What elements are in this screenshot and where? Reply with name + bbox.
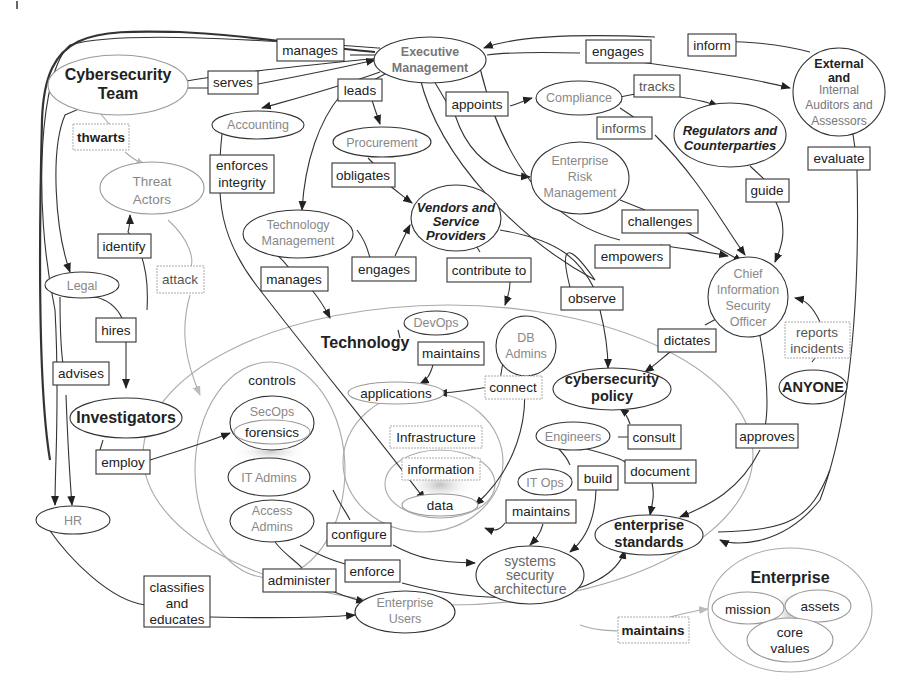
- svg-text:Service: Service: [433, 214, 479, 229]
- controls-label: controls: [248, 373, 296, 388]
- svg-text:manages: manages: [266, 272, 322, 287]
- svg-text:Cybersecurity: Cybersecurity: [65, 66, 172, 83]
- svg-text:ANYONE: ANYONE: [782, 379, 844, 395]
- label-administer: administer: [263, 569, 336, 592]
- svg-text:attack: attack: [162, 272, 198, 287]
- label-maintains-devops: maintains: [418, 342, 484, 365]
- label-connect: connect: [485, 376, 542, 399]
- svg-text:Internal: Internal: [819, 83, 859, 97]
- label-identify: identify: [98, 234, 151, 258]
- label-empowers: empowers: [595, 245, 670, 268]
- svg-text:approves: approves: [739, 429, 795, 444]
- svg-text:evaluate: evaluate: [813, 151, 864, 166]
- edge-leads-tech: [302, 96, 340, 210]
- node-cybersecurity-team: Cybersecurity Team: [48, 55, 188, 115]
- svg-text:Actors: Actors: [133, 192, 172, 207]
- node-cybersecurity-policy: cybersecurity policy: [553, 368, 671, 410]
- svg-text:enforces: enforces: [216, 158, 268, 173]
- label-document: document: [625, 460, 696, 483]
- svg-text:Vendors and: Vendors and: [417, 200, 496, 215]
- svg-text:data: data: [427, 498, 454, 513]
- svg-text:configure: configure: [331, 527, 387, 542]
- svg-text:inform: inform: [693, 38, 731, 53]
- svg-text:Officer: Officer: [730, 315, 767, 329]
- label-consult: consult: [628, 425, 681, 449]
- label-hires: hires: [96, 318, 136, 342]
- node-hr: HR: [36, 506, 110, 534]
- node-forensics: forensics: [234, 420, 310, 444]
- svg-text:maintains: maintains: [422, 346, 480, 361]
- node-erm: Enterprise Risk Management: [531, 142, 629, 214]
- label-employ: employ: [96, 450, 150, 474]
- edge-attack: [168, 220, 200, 395]
- edge-advises: [60, 297, 72, 505]
- node-anyone: ANYONE: [779, 370, 847, 404]
- svg-text:educates: educates: [150, 612, 205, 627]
- svg-text:advises: advises: [58, 366, 104, 381]
- label-advises: advises: [53, 362, 109, 385]
- cybersecurity-diagram: Cybersecurity Team Executive Management …: [0, 0, 901, 693]
- svg-text:cybersecurity: cybersecurity: [565, 371, 659, 387]
- svg-text:incidents: incidents: [790, 341, 844, 356]
- label-guide: guide: [746, 179, 789, 202]
- label-engages-vendors: engages: [352, 257, 416, 281]
- label-observe: observe: [561, 287, 623, 310]
- label-enforces-integrity: enforcesintegrity: [210, 155, 274, 193]
- svg-text:Management: Management: [262, 234, 335, 248]
- svg-text:Admins: Admins: [505, 347, 547, 361]
- svg-text:Admins: Admins: [251, 520, 293, 534]
- node-executive-management: Executive Management: [374, 37, 486, 83]
- label-manages-tech: manages: [261, 267, 328, 291]
- label-dictates: dictates: [658, 329, 716, 352]
- svg-text:build: build: [584, 471, 613, 486]
- svg-text:reports: reports: [796, 325, 838, 340]
- node-external-auditors: External and Internal Auditors and Asses…: [793, 48, 885, 136]
- node-regulators: Regulators and Counterparties: [674, 103, 786, 167]
- svg-text:engages: engages: [358, 262, 410, 277]
- enterprise-label: Enterprise: [750, 569, 829, 586]
- svg-text:core: core: [777, 625, 803, 640]
- svg-text:Counterparties: Counterparties: [684, 138, 776, 153]
- label-attack: attack: [157, 266, 204, 293]
- node-compliance: Compliance: [536, 81, 622, 115]
- label-maintains-enterprise: maintains: [618, 617, 689, 643]
- label-configure: configure: [327, 523, 391, 546]
- node-db-admins: DB Admins: [496, 316, 556, 376]
- label-challenges: challenges: [622, 210, 698, 233]
- svg-text:Security: Security: [725, 299, 771, 313]
- svg-text:External: External: [814, 57, 863, 71]
- svg-text:IT Ops: IT Ops: [526, 476, 563, 490]
- svg-text:Management: Management: [392, 61, 469, 75]
- label-thwarts: thwarts: [73, 124, 129, 150]
- node-it-ops: IT Ops: [518, 469, 572, 495]
- svg-text:Accounting: Accounting: [227, 118, 289, 132]
- label-engages-top: engages: [586, 40, 651, 63]
- svg-text:mission: mission: [725, 602, 771, 617]
- node-technology-management: Technology Management: [243, 210, 353, 258]
- edge-identify: [128, 215, 147, 310]
- svg-text:IT Admins: IT Admins: [241, 471, 296, 485]
- node-data: data: [402, 494, 478, 516]
- svg-text:Compliance: Compliance: [546, 91, 612, 105]
- label-obligates: obligates: [332, 163, 395, 187]
- svg-text:DevOps: DevOps: [413, 316, 458, 330]
- svg-text:Auditors and: Auditors and: [805, 98, 872, 112]
- edge-engages-vendors: [357, 225, 410, 258]
- node-access-admins: Access Admins: [230, 500, 314, 542]
- node-legal: Legal: [45, 272, 119, 298]
- label-informs: informs: [597, 117, 652, 139]
- svg-text:maintains: maintains: [512, 504, 570, 519]
- svg-text:tracks: tracks: [639, 79, 675, 94]
- svg-text:guide: guide: [750, 183, 783, 198]
- node-information: information: [402, 458, 480, 480]
- svg-text:architecture: architecture: [493, 581, 566, 597]
- svg-text:Management: Management: [544, 186, 617, 200]
- svg-text:engages: engages: [592, 44, 644, 59]
- svg-text:forensics: forensics: [245, 425, 299, 440]
- node-procurement: Procurement: [333, 127, 431, 157]
- svg-text:Legal: Legal: [67, 279, 98, 293]
- svg-text:connect: connect: [489, 380, 537, 395]
- label-serves: serves: [208, 71, 258, 94]
- svg-text:Technology: Technology: [266, 218, 330, 232]
- label-build: build: [578, 466, 618, 490]
